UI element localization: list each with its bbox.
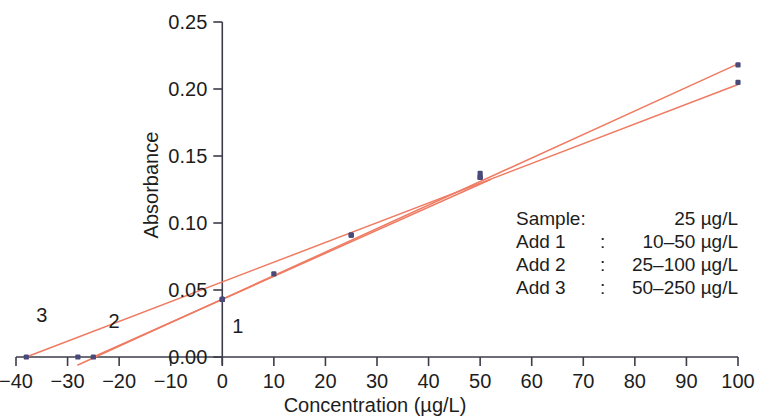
data-point	[735, 80, 740, 85]
y-tick-label: 0.10	[168, 212, 207, 234]
x-tick-label: 30	[366, 370, 388, 392]
x-tick-label: 60	[521, 370, 543, 392]
series-label-3: 3	[36, 304, 47, 326]
series-labels: 123	[36, 304, 243, 337]
y-tick-label: 0.05	[168, 279, 207, 301]
legend-row-separator	[600, 207, 618, 230]
x-tick-label: 0	[217, 370, 228, 392]
x-tick-label: 100	[721, 370, 754, 392]
y-tick-label: 0.20	[168, 78, 207, 100]
x-tick-label: −10	[154, 370, 188, 392]
x-tick-labels: −40−30−20−100102030405060708090100	[0, 370, 755, 392]
legend-row-value: 25 µg/L	[618, 207, 738, 230]
x-tick-label: 70	[572, 370, 594, 392]
data-point	[220, 297, 225, 302]
legend-row: Add 3:50–250 µg/L	[516, 276, 738, 299]
legend-row-name: Add 3	[516, 276, 600, 299]
x-tick-label: 20	[314, 370, 336, 392]
x-intercept-marker	[24, 354, 29, 359]
legend-row-name: Add 2	[516, 253, 600, 276]
annotation-legend: Sample:25 µg/LAdd 1:10–50 µg/LAdd 2:25–1…	[516, 207, 738, 299]
legend-row-value: 10–50 µg/L	[618, 230, 738, 253]
series-label-2: 2	[108, 310, 119, 332]
legend-row-separator: :	[600, 230, 618, 253]
data-point	[478, 175, 483, 180]
x-axis-title: Concentration (µg/L)	[284, 394, 467, 416]
data-point	[349, 232, 354, 237]
x-tick-label: −40	[0, 370, 33, 392]
x-tick-label: 50	[469, 370, 491, 392]
data-point	[271, 271, 276, 276]
legend-row-name: Sample:	[516, 207, 600, 230]
y-axis-title: Absorbance	[140, 132, 162, 239]
data-point	[735, 62, 740, 67]
legend-row-name: Add 1	[516, 230, 600, 253]
x-tick-label: 90	[675, 370, 697, 392]
x-tick-label: −30	[51, 370, 85, 392]
series-label-1: 1	[232, 315, 243, 337]
axes	[16, 22, 738, 366]
legend-row-value: 50–250 µg/L	[618, 276, 738, 299]
x-tick-label: 40	[417, 370, 439, 392]
y-tick-label: 0.15	[168, 145, 207, 167]
y-tick-label: 0.25	[168, 11, 207, 33]
x-intercept-marker	[91, 354, 96, 359]
x-tick-label: 10	[263, 370, 285, 392]
legend-row: Sample:25 µg/L	[516, 207, 738, 230]
legend-row-separator: :	[600, 253, 618, 276]
legend-row: Add 2:25–100 µg/L	[516, 253, 738, 276]
x-intercept-marker	[75, 354, 80, 359]
legend-row-separator: :	[600, 276, 618, 299]
chart-figure: −40−30−20−100102030405060708090100 0.000…	[0, 0, 758, 419]
legend-row: Add 1:10–50 µg/L	[516, 230, 738, 253]
legend-row-value: 25–100 µg/L	[618, 253, 738, 276]
y-tick-label: 0.00	[168, 346, 207, 368]
x-tick-label: −20	[102, 370, 136, 392]
x-tick-label: 80	[624, 370, 646, 392]
